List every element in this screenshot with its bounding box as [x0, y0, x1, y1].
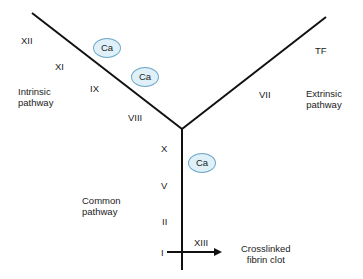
factor-xii-label: XII	[21, 35, 33, 46]
factor-ii-label: II	[162, 216, 167, 227]
tissue-factor-label: TF	[315, 45, 327, 56]
calcium-ellipse: Ca	[188, 153, 216, 173]
common-pathway-label: Common pathway	[82, 195, 121, 217]
extrinsic-pathway-label: Extrinsic pathway	[306, 88, 342, 110]
intrinsic-pathway-label: Intrinsic pathway	[18, 86, 53, 108]
extrinsic-pathway-line	[182, 17, 326, 129]
factor-i-label: I	[161, 247, 164, 258]
factor-ix-label: IX	[90, 83, 99, 94]
crosslinked-fibrin-clot-label: Crosslinked fibrin clot	[241, 243, 291, 265]
factor-xiii-label: XIII	[194, 237, 208, 248]
factor-x-label: X	[161, 143, 167, 154]
calcium-ellipse: Ca	[93, 38, 121, 58]
factor-vii-label: VII	[259, 89, 271, 100]
factor-viii-label: VIII	[128, 112, 142, 123]
calcium-ellipse: Ca	[131, 67, 159, 87]
factor-xi-label: XI	[55, 61, 64, 72]
coagulation-cascade-diagram: XII XI IX VIII Intrinsic pathway TF VII …	[0, 0, 363, 279]
factor-v-label: V	[161, 180, 167, 191]
cascade-lines	[0, 0, 363, 279]
